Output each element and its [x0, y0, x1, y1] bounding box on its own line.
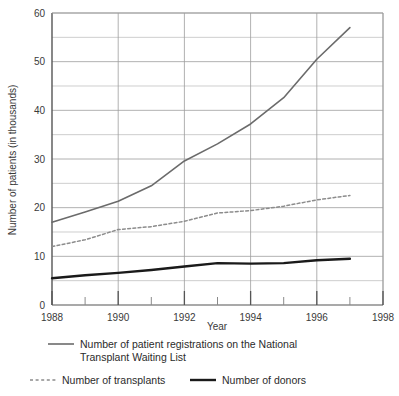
x-tick-label: 1990 [107, 312, 130, 323]
x-tick-label: 1992 [173, 312, 196, 323]
y-tick-label: 0 [39, 300, 45, 311]
legend-label-registrations-line2: Transplant Waiting List [80, 351, 186, 363]
legend-label-registrations-line1: Number of patient registrations on the N… [80, 338, 297, 350]
x-tick-label: 1988 [41, 312, 64, 323]
y-tick-label: 60 [34, 8, 46, 19]
y-tick-label: 50 [34, 56, 46, 67]
y-tick-label: 30 [34, 154, 46, 165]
x-axis-title: Year [207, 321, 228, 332]
x-tick-label: 1994 [239, 312, 262, 323]
x-tick-label: 1996 [306, 312, 329, 323]
legend-label-transplants: Number of transplants [62, 374, 165, 386]
x-tick-label: 1998 [372, 312, 395, 323]
y-tick-label: 10 [34, 251, 46, 262]
y-tick-label: 20 [34, 202, 46, 213]
y-axis-title: Number of patients (in thousands) [7, 85, 18, 236]
chart-container: 198819901992199419961998 0102030405060 Y… [0, 0, 399, 396]
chart-background [0, 0, 399, 396]
line-chart: 198819901992199419961998 0102030405060 Y… [0, 0, 399, 396]
y-tick-label: 40 [34, 105, 46, 116]
legend-label-donors: Number of donors [222, 374, 306, 386]
